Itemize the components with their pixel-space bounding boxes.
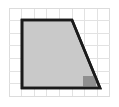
figure-container: Right trapezoid drawn on a square grid [0, 0, 119, 107]
trapezoid-grid-figure: Right trapezoid drawn on a square grid [0, 0, 119, 107]
